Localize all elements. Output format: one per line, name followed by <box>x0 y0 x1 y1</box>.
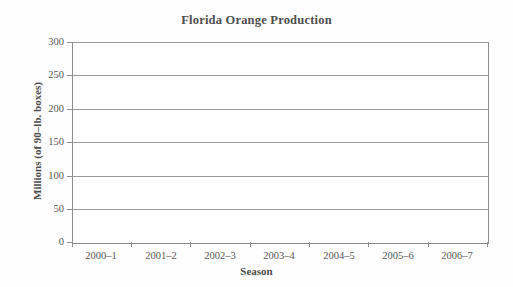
y-tick-label-150: 150 <box>24 136 64 147</box>
x-tick-mark-3 <box>250 242 251 247</box>
data-series-layer <box>73 43 488 243</box>
y-tick-label-50: 50 <box>24 203 64 214</box>
x-tick-mark-7 <box>487 242 488 247</box>
x-tick-mark-4 <box>309 242 310 247</box>
x-tick-mark-1 <box>131 242 132 247</box>
y-tick-label-200: 200 <box>24 103 64 114</box>
plot-area <box>72 42 489 244</box>
chart-container: Florida Orange Production Millions (of 9… <box>0 0 513 287</box>
y-axis-title: Millions (of 90–lb. boxes) <box>31 41 43 241</box>
x-tick-label-2006-7: 2006–7 <box>422 250 492 261</box>
x-axis-title: Season <box>0 265 513 277</box>
x-tick-mark-0 <box>72 242 73 247</box>
x-tick-mark-6 <box>428 242 429 247</box>
x-tick-mark-2 <box>190 242 191 247</box>
y-tick-label-250: 250 <box>24 69 64 80</box>
y-tick-label-300: 300 <box>24 36 64 47</box>
x-tick-mark-5 <box>368 242 369 247</box>
y-tick-label-100: 100 <box>24 170 64 181</box>
y-tick-label-0: 0 <box>24 236 64 247</box>
chart-title: Florida Orange Production <box>0 13 513 28</box>
